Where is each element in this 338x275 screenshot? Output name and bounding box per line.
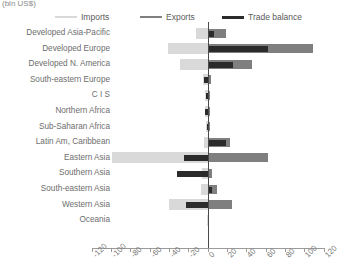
legend-item-imports: Imports	[55, 10, 109, 24]
bar-row: Developed Europe	[0, 43, 321, 59]
legend-label-exports: Exports	[166, 12, 195, 22]
category-label: C I S	[0, 90, 110, 100]
bar-row: Developed Asia-Pacific	[0, 27, 321, 43]
legend-label-imports: Imports	[81, 12, 109, 22]
legend-swatch-trade-balance	[222, 16, 244, 19]
category-label: Oceania	[0, 215, 110, 225]
category-label: Eastern Asia	[0, 153, 110, 163]
category-label: Developed N. America	[0, 59, 110, 69]
bar-trade-balance	[208, 31, 215, 37]
category-label: South-eastern Asia	[0, 184, 110, 194]
legend-item-trade-balance: Trade balance	[222, 10, 302, 24]
legend-swatch-exports	[140, 16, 162, 18]
category-label: Latin Am, Caribbean	[0, 137, 110, 147]
bar-row: Western Asia	[0, 199, 321, 215]
legend-swatch-imports	[55, 16, 77, 18]
chart-legend: Imports Exports Trade balance	[0, 10, 321, 24]
legend-item-exports: Exports	[140, 10, 195, 24]
legend-label-trade-balance: Trade balance	[248, 12, 302, 22]
bar-trade-balance	[186, 202, 207, 208]
bar-exports	[208, 153, 268, 162]
bar-imports	[168, 43, 208, 54]
category-label: South-eastern Europe	[0, 75, 110, 85]
category-label: Southern Asia	[0, 168, 110, 178]
bar-trade-balance	[208, 46, 268, 52]
bar-imports	[196, 28, 208, 39]
x-axis-tick-label: 0	[207, 250, 217, 260]
bar-imports	[201, 184, 208, 195]
bar-row: Eastern Asia	[0, 152, 321, 168]
bar-row: South-eastern Europe	[0, 74, 321, 90]
bar-row: C I S	[0, 89, 321, 105]
bar-row: Latin Am, Caribbean	[0, 136, 321, 152]
bar-row: South-eastern Asia	[0, 183, 321, 199]
bar-row: Developed N. America	[0, 58, 321, 74]
chart-plot-area: Developed Asia-PacificDeveloped EuropeDe…	[0, 26, 321, 248]
bar-trade-balance	[208, 62, 233, 68]
category-label: Developed Asia-Pacific	[0, 28, 110, 38]
bar-rows: Developed Asia-PacificDeveloped EuropeDe…	[0, 26, 321, 248]
category-label: Sub-Saharan Africa	[0, 122, 110, 132]
x-axis-tick-label: 120	[323, 244, 338, 260]
bar-row: Oceania	[0, 214, 321, 230]
bar-trade-balance	[184, 155, 208, 161]
unit-label: (bln US$)	[2, 0, 36, 8]
bar-trade-balance	[208, 140, 226, 146]
category-label: Northern Africa	[0, 106, 110, 116]
x-axis: -120-100-80-60-40-20020406080100120	[0, 248, 321, 275]
category-label: Western Asia	[0, 200, 110, 210]
zero-axis-line	[208, 22, 209, 248]
bar-row: Northern Africa	[0, 105, 321, 121]
bar-row: Southern Asia	[0, 167, 321, 183]
category-label: Developed Europe	[0, 44, 110, 54]
bar-trade-balance	[177, 171, 208, 177]
bar-imports	[180, 59, 208, 70]
bar-row: Sub-Saharan Africa	[0, 121, 321, 137]
bar-exports	[208, 200, 232, 209]
